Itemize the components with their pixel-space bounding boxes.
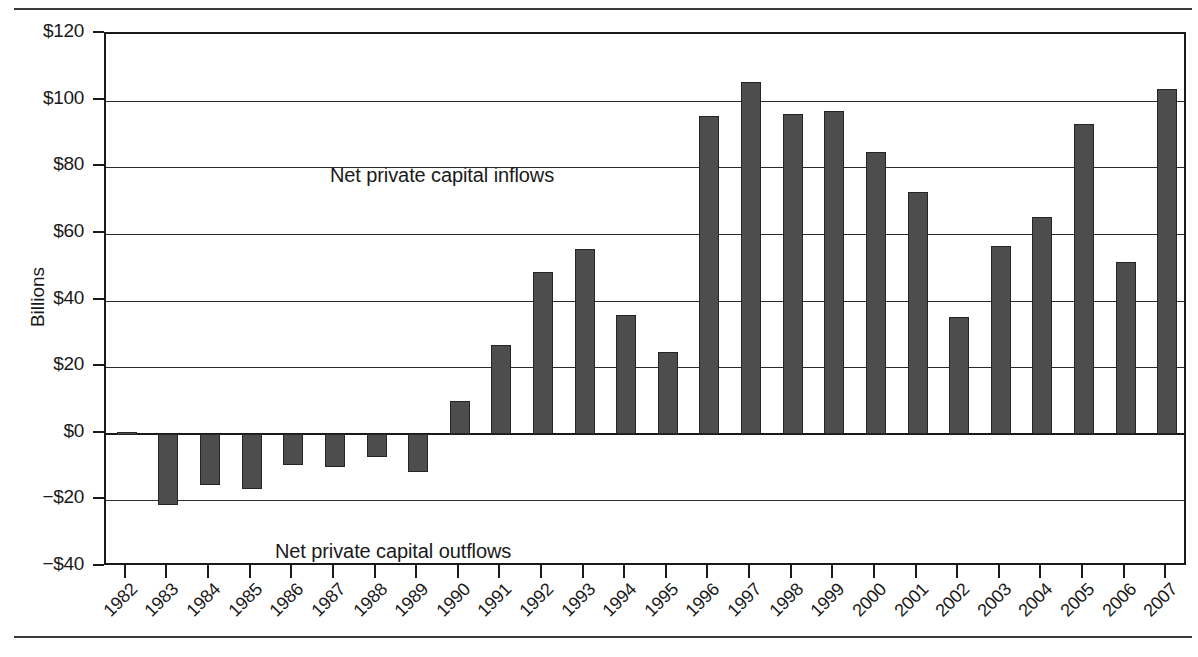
bar-1985 [242, 434, 262, 489]
x-tick-mark [207, 565, 209, 578]
x-tick-mark [1081, 565, 1083, 578]
bar-1990 [450, 401, 470, 434]
y-tick-label: $80 [0, 153, 84, 175]
x-tick-mark [374, 565, 376, 578]
x-tick-mark [415, 565, 417, 578]
x-tick-mark [582, 565, 584, 578]
gridline-80 [106, 167, 1184, 168]
y-tick-mark [93, 98, 104, 100]
x-tick-mark [998, 565, 1000, 578]
bar-1987 [325, 434, 345, 467]
bar-1991 [491, 345, 511, 433]
x-tick-mark [1164, 565, 1166, 578]
y-tick-mark [93, 364, 104, 366]
figure-bottom-rule [14, 636, 1192, 638]
bar-1986 [283, 434, 303, 466]
x-tick-mark [956, 565, 958, 578]
x-tick-mark [1039, 565, 1041, 578]
x-tick-mark [498, 565, 500, 578]
bar-2005 [1074, 124, 1094, 434]
x-tick-mark [831, 565, 833, 578]
bar-2004 [1032, 217, 1052, 434]
y-tick-mark [93, 431, 104, 433]
bar-2007 [1157, 89, 1177, 434]
y-tick-mark [93, 164, 104, 166]
x-tick-mark [915, 565, 917, 578]
bar-2002 [949, 317, 969, 434]
y-tick-label: $120 [0, 20, 84, 42]
y-tick-label: −$20 [0, 486, 84, 508]
x-tick-mark [1123, 565, 1125, 578]
y-tick-mark [93, 298, 104, 300]
x-tick-mark [540, 565, 542, 578]
x-tick-mark [290, 565, 292, 578]
x-tick-mark [332, 565, 334, 578]
bar-1993 [575, 249, 595, 434]
y-tick-label: $20 [0, 353, 84, 375]
bar-1992 [533, 272, 553, 434]
bar-1994 [616, 315, 636, 433]
gridline-60 [106, 234, 1184, 235]
bar-2000 [866, 152, 886, 433]
y-tick-label: −$40 [0, 553, 84, 575]
x-tick-mark [124, 565, 126, 578]
y-tick-label: $40 [0, 287, 84, 309]
x-tick-mark [623, 565, 625, 578]
bar-1999 [824, 111, 844, 434]
x-tick-mark [165, 565, 167, 578]
y-tick-label: $60 [0, 220, 84, 242]
zero-line [106, 433, 1184, 435]
y-tick-mark [93, 564, 104, 566]
bar-1997 [741, 82, 761, 433]
bar-1988 [367, 434, 387, 457]
gridline-40 [106, 301, 1184, 302]
y-tick-mark [93, 231, 104, 233]
figure-container: Billions $120$100$80$60$40$20$0−$20−$40 … [0, 0, 1198, 657]
bar-1989 [408, 434, 428, 472]
bar-2003 [991, 246, 1011, 434]
bar-2006 [1116, 262, 1136, 434]
y-tick-mark [93, 31, 104, 33]
annotation-outflows: Net private capital outflows [273, 540, 513, 563]
bar-1984 [200, 434, 220, 486]
bar-2001 [908, 192, 928, 434]
x-tick-mark [457, 565, 459, 578]
x-tick-mark [249, 565, 251, 578]
gridline-20 [106, 367, 1184, 368]
figure-top-rule [14, 8, 1192, 10]
bar-1995 [658, 352, 678, 434]
annotation-inflows: Net private capital inflows [330, 164, 554, 187]
plot-area: Net private capital inflows Net private … [104, 32, 1186, 565]
x-tick-mark [665, 565, 667, 578]
y-tick-label: $100 [0, 87, 84, 109]
bar-1996 [699, 116, 719, 434]
bar-1998 [783, 114, 803, 434]
x-tick-mark [706, 565, 708, 578]
x-tick-mark [790, 565, 792, 578]
y-tick-label: $0 [0, 420, 84, 442]
bar-1983 [158, 434, 178, 506]
gridline-100 [106, 101, 1184, 102]
x-tick-mark [748, 565, 750, 578]
bar-1982 [117, 432, 137, 435]
gridline--20 [106, 500, 1184, 501]
x-tick-mark [873, 565, 875, 578]
y-tick-mark [93, 497, 104, 499]
